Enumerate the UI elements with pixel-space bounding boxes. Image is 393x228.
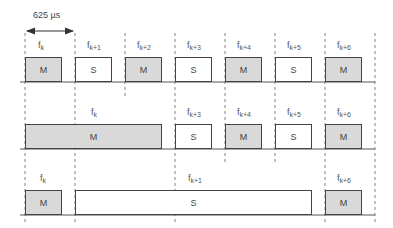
master-slot: M (125, 57, 162, 82)
master-slot: M (325, 190, 362, 215)
slave-slot: S (275, 124, 312, 149)
master-slot: M (325, 57, 362, 82)
master-slot: M (25, 57, 62, 82)
slave-slot: S (75, 57, 112, 82)
freq-label: fk (38, 40, 44, 51)
freq-label: fk+4 (237, 107, 251, 118)
master-slot: M (225, 124, 262, 149)
master-slot: M (325, 124, 362, 149)
freq-label: fk+5 (287, 40, 301, 51)
freq-label: fk+6 (337, 173, 351, 184)
freq-label: fk (91, 107, 97, 118)
master-slot: M (25, 190, 62, 215)
freq-label: fk+6 (337, 40, 351, 51)
slot-duration-label: 625 µs (33, 10, 60, 20)
freq-label: fk+3 (187, 40, 201, 51)
freq-label: fk (40, 173, 46, 184)
slave-slot: S (75, 190, 312, 215)
slave-slot: S (175, 124, 212, 149)
freq-label: fk+1 (188, 173, 202, 184)
freq-label: fk+2 (137, 40, 151, 51)
master-slot: M (225, 57, 262, 82)
freq-label: fk+3 (187, 107, 201, 118)
slave-slot: S (175, 57, 212, 82)
freq-label: fk+5 (287, 107, 301, 118)
freq-label: fk+1 (87, 40, 101, 51)
master-slot: M (25, 124, 162, 149)
slave-slot: S (275, 57, 312, 82)
freq-label: fk+4 (237, 40, 251, 51)
freq-label: fk+6 (337, 107, 351, 118)
